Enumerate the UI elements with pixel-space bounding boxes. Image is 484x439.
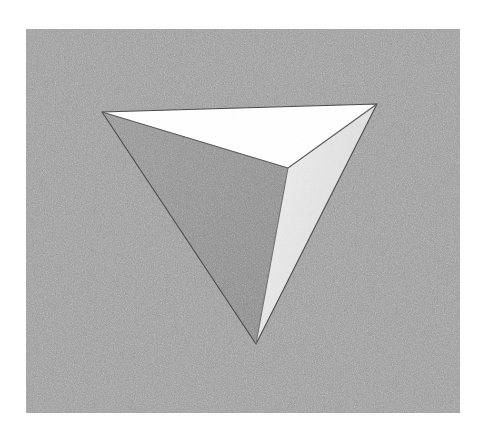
figure-canvas bbox=[0, 0, 484, 439]
tetrahedron-illustration bbox=[0, 0, 484, 439]
